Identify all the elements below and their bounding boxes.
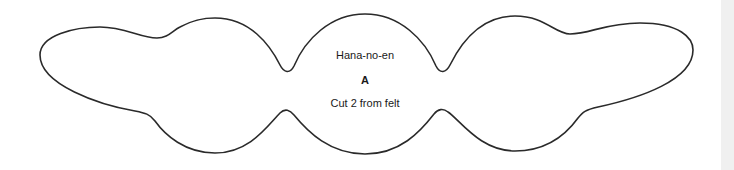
scrollbar-track[interactable] — [721, 0, 734, 170]
cutting-instruction: Cut 2 from felt — [265, 97, 465, 109]
pattern-title: Hana-no-en — [265, 49, 465, 61]
pattern-piece-letter: A — [265, 74, 465, 86]
